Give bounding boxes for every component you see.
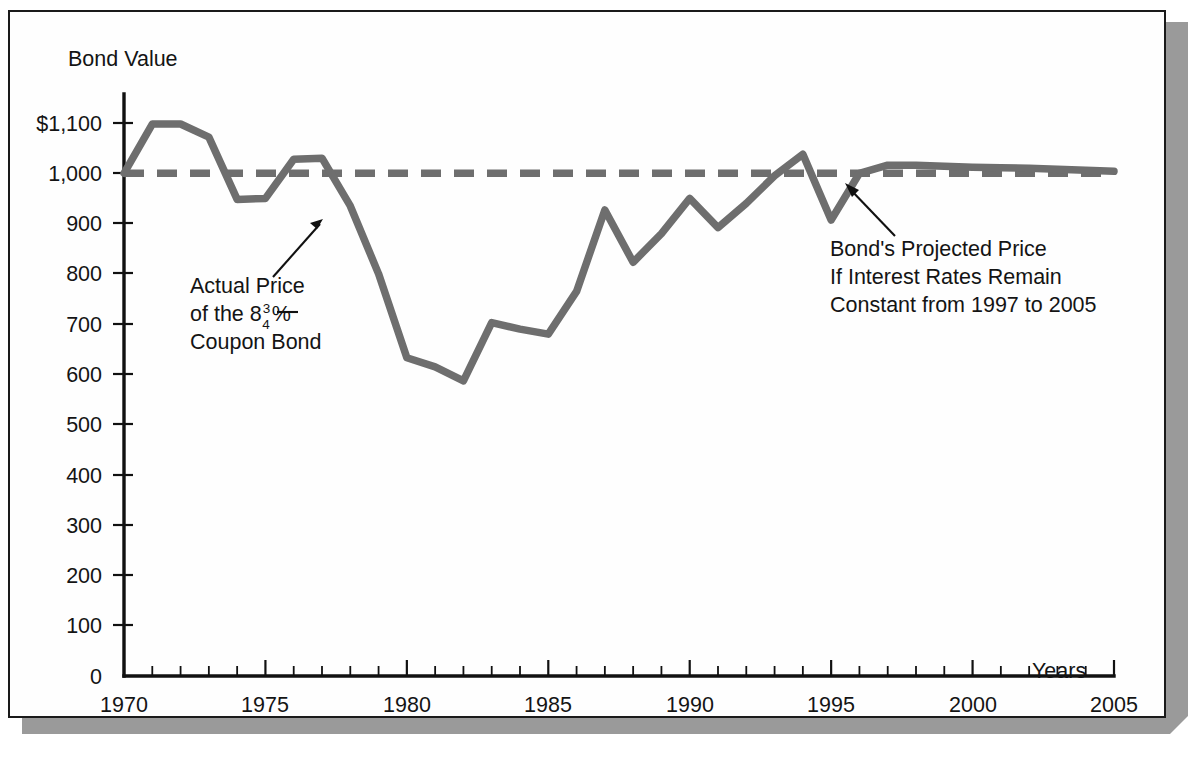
projected-price-annotation-line2: If Interest Rates Remain bbox=[830, 265, 1062, 289]
x-tick-label-1995: 1995 bbox=[807, 693, 855, 717]
actual-price-annotation-line2: of the 834% bbox=[190, 301, 291, 332]
x-tick-label-1970: 1970 bbox=[100, 693, 148, 717]
x-axis-tick-labels: 1970 1975 1980 1985 1990 1995 2000 2005 bbox=[100, 693, 1138, 717]
y-tick-label-800: 800 bbox=[66, 262, 102, 286]
actual-price-annotation-line3: Coupon Bond bbox=[190, 330, 322, 354]
x-tick-label-2005: 2005 bbox=[1090, 693, 1138, 717]
y-tick-label-700: 700 bbox=[66, 313, 102, 337]
x-tick-label-1975: 1975 bbox=[241, 693, 289, 717]
projected-price-annotation-line1: Bond's Projected Price bbox=[830, 237, 1047, 261]
actual-price-leader-line bbox=[273, 224, 320, 277]
y-tick-label-100: 100 bbox=[66, 614, 102, 638]
y-tick-label-1100: $1,100 bbox=[36, 112, 102, 136]
chart-axes bbox=[124, 94, 1114, 676]
projected-price-leader-line bbox=[849, 188, 895, 236]
y-axis-tick-labels: $1,100 1,000 900 800 700 600 500 400 300… bbox=[36, 112, 102, 689]
x-axis-major-ticks bbox=[124, 660, 1114, 676]
x-tick-label-1990: 1990 bbox=[666, 693, 714, 717]
y-tick-label-500: 500 bbox=[66, 413, 102, 437]
y-tick-label-1000: 1,000 bbox=[48, 162, 102, 186]
y-tick-label-600: 600 bbox=[66, 363, 102, 387]
y-tick-label-0: 0 bbox=[90, 665, 102, 689]
x-tick-label-2000: 2000 bbox=[949, 693, 997, 717]
scanned-page-background: $1,100 1,000 900 800 700 600 500 400 300… bbox=[0, 0, 1199, 779]
actual-price-annotation-line1: Actual Price bbox=[190, 274, 305, 298]
x-tick-label-1985: 1985 bbox=[524, 693, 572, 717]
bond-value-line-chart: $1,100 1,000 900 800 700 600 500 400 300… bbox=[10, 12, 1168, 720]
shadow-bevel-bottom-right bbox=[1170, 716, 1188, 734]
y-tick-label-400: 400 bbox=[66, 464, 102, 488]
y-tick-label-900: 900 bbox=[66, 212, 102, 236]
years-axis-label: Years bbox=[1032, 659, 1086, 684]
y-tick-label-300: 300 bbox=[66, 514, 102, 538]
y-axis-title: Bond Value bbox=[68, 47, 178, 71]
actual-price-arrow-head bbox=[310, 219, 323, 229]
actual-price-annotation: Actual Price of the 834% Coupon Bond bbox=[190, 219, 323, 354]
actual-price-annotation-line2-suffix: % bbox=[272, 302, 291, 326]
x-tick-label-1980: 1980 bbox=[383, 693, 431, 717]
figure-panel: $1,100 1,000 900 800 700 600 500 400 300… bbox=[8, 10, 1166, 718]
y-tick-label-200: 200 bbox=[66, 564, 102, 588]
projected-price-annotation: Bond's Projected Price If Interest Rates… bbox=[830, 183, 1097, 317]
projected-price-annotation-line3: Constant from 1997 to 2005 bbox=[830, 293, 1097, 317]
actual-price-annotation-line2-prefix: of the 8 bbox=[190, 302, 262, 326]
fraction-numerator: 3 bbox=[263, 301, 271, 316]
